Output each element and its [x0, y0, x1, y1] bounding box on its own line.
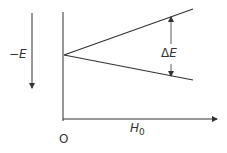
- zeeman-splitting-diagram: −E ΔE H0 O: [0, 0, 227, 153]
- origin-label: O: [59, 133, 68, 145]
- y-axis-label: −E: [9, 48, 27, 60]
- delta-symbol: Δ: [161, 46, 169, 60]
- delta-e-letter: E: [169, 46, 177, 60]
- delta-e-label: ΔE: [161, 47, 177, 59]
- x-axis-label: H0: [130, 122, 145, 135]
- h-subscript: 0: [139, 127, 145, 137]
- h-letter: H: [130, 121, 139, 135]
- diagram-graphics: [0, 0, 227, 153]
